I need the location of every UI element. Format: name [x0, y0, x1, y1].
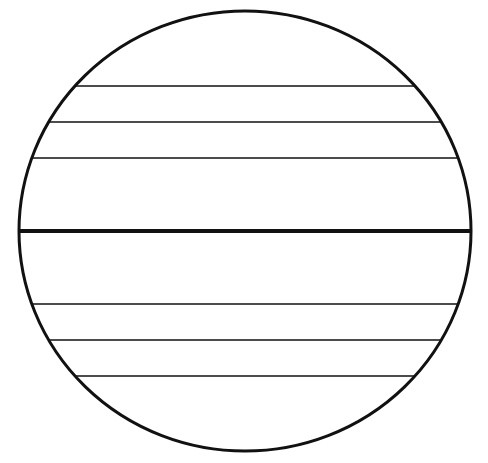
diagram-canvas: [0, 0, 488, 463]
circle-diagram: [0, 0, 488, 463]
